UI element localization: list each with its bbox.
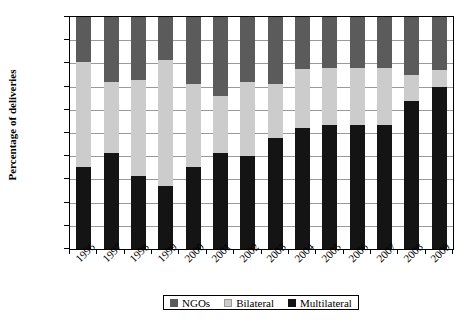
- bar-segment-multilateral-1996: [76, 167, 91, 249]
- x-axis-tick-mark: [233, 249, 234, 254]
- bar-segment-ngos-1999: [158, 17, 173, 60]
- legend-swatch-multilateral-icon: [288, 299, 296, 307]
- bar-group-1996: [76, 17, 91, 249]
- x-axis-tick-mark: [452, 249, 453, 254]
- bar-segment-multilateral-2007: [377, 125, 392, 249]
- bar-segment-bilateral-1998: [131, 80, 146, 176]
- bar-segment-ngos-2002: [240, 17, 255, 82]
- gridline: [70, 63, 453, 64]
- bar-group-2001: [213, 17, 228, 249]
- gridline: [70, 40, 453, 41]
- bar-segment-multilateral-1998: [131, 176, 146, 249]
- x-axis-tick-mark: [315, 249, 316, 254]
- bar-group-2000: [186, 17, 201, 249]
- chart-legend: NGOsBilateralMultilateral: [163, 295, 359, 310]
- bar-segment-multilateral-2004: [295, 128, 310, 249]
- gridline: [70, 110, 453, 111]
- gridline: [70, 156, 453, 157]
- legend-item-bilateral[interactable]: Bilateral: [224, 297, 274, 309]
- gridline: [70, 133, 453, 134]
- x-axis-tick-mark: [370, 249, 371, 254]
- x-axis-tick-mark: [69, 249, 70, 254]
- bar-segment-multilateral-2009: [432, 87, 447, 249]
- x-axis-tick-mark: [261, 249, 262, 254]
- plot-area: [69, 16, 454, 250]
- x-axis-tick-mark: [96, 249, 97, 254]
- bar-segment-ngos-1998: [131, 17, 146, 80]
- bar-group-2004: [295, 17, 310, 249]
- bar-segment-bilateral-2006: [350, 68, 365, 125]
- bar-segment-multilateral-2003: [268, 138, 283, 249]
- bar-group-1997: [104, 17, 119, 249]
- legend-item-ngos[interactable]: NGOs: [170, 297, 210, 309]
- bar-segment-bilateral-2009: [432, 70, 447, 86]
- bar-segment-bilateral-1996: [76, 62, 91, 166]
- gridline: [70, 87, 453, 88]
- bar-segment-multilateral-2000: [186, 167, 201, 249]
- legend-label: Bilateral: [236, 297, 274, 309]
- bar-segment-ngos-2009: [432, 17, 447, 70]
- bar-segment-ngos-2003: [268, 17, 283, 84]
- bar-segment-ngos-2007: [377, 17, 392, 68]
- bar-segment-bilateral-2004: [295, 69, 310, 128]
- bar-group-2006: [350, 17, 365, 249]
- bar-group-2008: [404, 17, 419, 249]
- gridline: [70, 179, 453, 180]
- legend-label: NGOs: [182, 297, 210, 309]
- bar-segment-bilateral-2003: [268, 84, 283, 137]
- bar-segment-bilateral-2005: [322, 68, 337, 125]
- bar-group-1999: [158, 17, 173, 249]
- y-axis-title: Percentage of deliveries: [0, 0, 24, 250]
- x-axis-tick-mark: [178, 249, 179, 254]
- bar-segment-ngos-2001: [213, 17, 228, 96]
- x-axis-tick-mark: [425, 249, 426, 254]
- bar-segment-ngos-2004: [295, 17, 310, 69]
- legend-item-multilateral[interactable]: Multilateral: [288, 297, 352, 309]
- bar-segment-bilateral-1997: [104, 82, 119, 153]
- bar-segment-multilateral-2002: [240, 156, 255, 249]
- x-axis-tick-mark: [288, 249, 289, 254]
- bar-segment-multilateral-1997: [104, 153, 119, 249]
- bar-segment-bilateral-2008: [404, 75, 419, 101]
- bar-segment-ngos-1996: [76, 17, 91, 62]
- bar-segment-bilateral-2001: [213, 96, 228, 153]
- bar-segment-ngos-2000: [186, 17, 201, 84]
- bar-segment-ngos-1997: [104, 17, 119, 82]
- bar-segment-bilateral-2000: [186, 84, 201, 166]
- gridline: [70, 203, 453, 204]
- legend-swatch-bilateral-icon: [224, 299, 232, 307]
- bar-segment-bilateral-2007: [377, 68, 392, 125]
- bar-segment-multilateral-2001: [213, 153, 228, 249]
- bar-group-2003: [268, 17, 283, 249]
- x-axis-tick-mark: [397, 249, 398, 254]
- x-axis-tick-mark: [151, 249, 152, 254]
- y-axis-title-text: Percentage of deliveries: [6, 70, 18, 181]
- bar-segment-ngos-2006: [350, 17, 365, 68]
- bar-segment-bilateral-1999: [158, 60, 173, 186]
- bar-segment-multilateral-2005: [322, 125, 337, 249]
- bar-segment-multilateral-2006: [350, 125, 365, 249]
- bar-segment-ngos-2005: [322, 17, 337, 68]
- bar-group-2009: [432, 17, 447, 249]
- bar-segment-bilateral-2002: [240, 82, 255, 156]
- bar-segment-multilateral-1999: [158, 186, 173, 249]
- bar-group-2007: [377, 17, 392, 249]
- bar-segment-ngos-2008: [404, 17, 419, 75]
- x-axis-tick-mark: [124, 249, 125, 254]
- x-axis-tick-mark: [206, 249, 207, 254]
- bar-segment-multilateral-2008: [404, 101, 419, 249]
- bar-group-1998: [131, 17, 146, 249]
- gridline: [70, 226, 453, 227]
- legend-label: Multilateral: [300, 297, 352, 309]
- bar-group-2005: [322, 17, 337, 249]
- x-axis-tick-mark: [343, 249, 344, 254]
- gridlines: [70, 17, 453, 249]
- bar-group-2002: [240, 17, 255, 249]
- chart-container: Percentage of deliveries 0%10%20%30%40%5…: [0, 0, 473, 325]
- legend-swatch-ngos-icon: [170, 299, 178, 307]
